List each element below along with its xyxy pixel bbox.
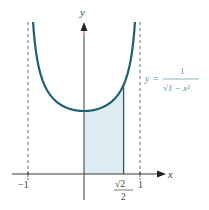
x-axis-label: x [167,168,173,180]
function-label-denominator: √1 − x² [163,83,190,93]
x-axis-arrow-icon [157,171,166,178]
tick-label-neg1: −1 [18,179,29,190]
graph-canvas: y x −1 1 √2 2 y = 1 √1 − x² [0,0,209,210]
y-axis-label: y [79,6,85,18]
y-axis-arrow-icon [81,22,88,31]
tick-label-sqrt2-over-2: √2 2 [114,179,133,202]
function-label-numerator: 1 [180,66,185,76]
function-label: y = 1 √1 − x² [144,66,199,93]
shaded-area [84,85,124,174]
function-label-lhs: y = [144,73,159,84]
tick-label-numerator: √2 [115,179,125,189]
tick-label-1: 1 [138,179,143,190]
tick-label-denominator: 2 [121,192,126,202]
